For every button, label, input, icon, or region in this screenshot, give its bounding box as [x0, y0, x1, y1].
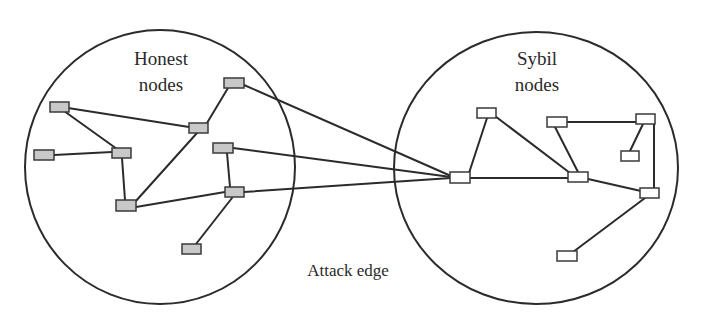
sybil-node-s1 [477, 108, 496, 118]
sybil-node-s3 [636, 114, 655, 124]
sybil-node-s6 [568, 172, 588, 182]
sybil-nodes [450, 108, 659, 261]
sybil-nodes-label: Sybil nodes [494, 46, 580, 98]
edge-h2-h3 [54, 152, 112, 155]
honest-nodes [34, 78, 244, 254]
honest-node-h5 [224, 78, 244, 88]
sybil-node-s7 [640, 188, 659, 198]
edge-h1-h3 [64, 111, 117, 149]
edge-h4-h5 [207, 88, 228, 123]
edge-h3-h8 [122, 158, 125, 200]
edge-h1-h4 [68, 108, 189, 127]
honest-label-line2: nodes [118, 72, 204, 98]
honest-node-h2 [34, 150, 54, 160]
sybil-label-line2: nodes [494, 72, 580, 98]
edge-h8-h7 [136, 192, 225, 207]
edge-h6-h7 [227, 153, 230, 187]
attack-edge-3 [244, 178, 451, 192]
sybil-node-s2 [547, 117, 567, 127]
honest-node-h4 [189, 123, 208, 133]
attack-edge-label: Attack edge [290, 261, 406, 281]
honest-node-h9 [182, 244, 201, 254]
honest-node-h3 [112, 148, 131, 158]
sybil-node-s4 [621, 151, 639, 161]
honest-node-h7 [225, 187, 244, 197]
honest-node-h6 [213, 143, 233, 153]
honest-edges [54, 88, 232, 244]
edge-h7-h9 [196, 198, 232, 244]
edge-s3-s4 [630, 124, 643, 151]
edge-s7-s8 [573, 198, 645, 252]
honest-nodes-label: Honest nodes [118, 46, 204, 98]
edge-s5-s1 [469, 118, 487, 173]
honest-node-h1 [50, 102, 69, 112]
edge-s6-s7 [588, 179, 641, 191]
sybil-node-s8 [557, 251, 577, 261]
attack-edges [233, 85, 451, 192]
honest-node-h8 [116, 200, 136, 211]
sybil-node-s5-hub [450, 172, 470, 183]
sybil-edges [469, 116, 654, 252]
edge-h8-h4 [135, 133, 197, 202]
sybil-label-line1: Sybil [494, 46, 580, 72]
honest-label-line1: Honest [118, 46, 204, 72]
